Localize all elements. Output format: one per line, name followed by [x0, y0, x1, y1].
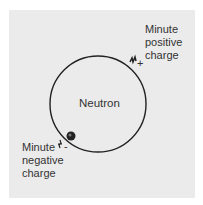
positive-label-line2: positive [145, 36, 182, 49]
neutron-label: Neutron [79, 97, 120, 110]
negative-label-line3: charge [22, 167, 56, 180]
positive-label-line3: charge [145, 49, 179, 62]
positive-sign: + [137, 57, 143, 70]
negative-sign: - [64, 140, 68, 153]
negative-charge-swirl-icon [58, 140, 62, 148]
negative-label-line2: negative [22, 154, 64, 167]
positive-label-line1: Minute [145, 23, 178, 36]
positive-charge-swirl-icon [130, 57, 136, 62]
negative-label-line1: Minute [22, 141, 55, 154]
